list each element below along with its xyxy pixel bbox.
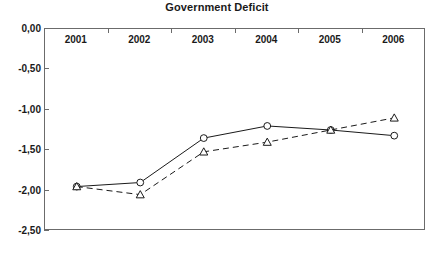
plot-lines — [45, 29, 426, 231]
y-axis-tick-label: -1,50 — [1, 144, 41, 155]
series-line — [77, 126, 395, 187]
data-point-marker — [264, 123, 271, 130]
chart-title: Government Deficit — [0, 1, 434, 13]
y-axis-tick-mark — [44, 68, 49, 69]
chart-container: Government Deficit 0,00-0,50-1,00-1,50-2… — [0, 0, 434, 257]
data-point-marker — [200, 135, 207, 142]
y-axis-tick-label: -0,50 — [1, 63, 41, 74]
x-axis-category-label: 2002 — [128, 34, 150, 45]
x-axis-tick-mark — [108, 28, 109, 33]
data-point-marker — [390, 114, 398, 121]
data-point-marker — [137, 179, 144, 186]
y-axis-tick-mark — [44, 109, 49, 110]
y-axis-tick-label: -2,00 — [1, 184, 41, 195]
y-axis: 0,00-0,50-1,00-1,50-2,00-2,50 — [0, 0, 41, 257]
y-axis-tick-mark — [44, 149, 49, 150]
x-axis-category-label: 2004 — [255, 34, 277, 45]
series-dashed — [73, 114, 399, 198]
data-point-marker — [391, 132, 398, 139]
plot-area — [44, 28, 425, 230]
y-axis-tick-label: 0,00 — [1, 23, 41, 34]
x-axis-tick-mark — [171, 28, 172, 33]
series-solid — [73, 123, 397, 190]
data-point-marker — [263, 138, 271, 145]
x-axis-category-label: 2006 — [382, 34, 404, 45]
x-axis-tick-mark — [235, 28, 236, 33]
x-axis-tick-mark — [298, 28, 299, 33]
y-axis-tick-mark — [44, 230, 49, 231]
y-axis-tick-label: -1,00 — [1, 103, 41, 114]
x-axis-category-label: 2005 — [319, 34, 341, 45]
x-axis-tick-mark — [362, 28, 363, 33]
x-axis-category-label: 2003 — [192, 34, 214, 45]
y-axis-tick-mark — [44, 190, 49, 191]
y-axis-tick-label: -2,50 — [1, 225, 41, 236]
x-axis-category-label: 2001 — [65, 34, 87, 45]
